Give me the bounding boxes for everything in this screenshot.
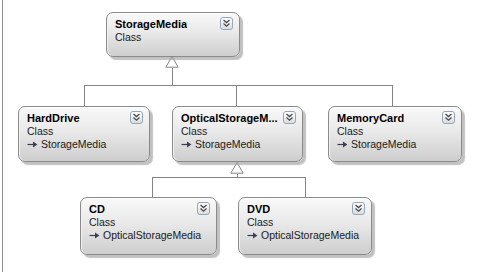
base-type-name: StorageMedia <box>351 138 416 151</box>
inherits-arrow-icon <box>89 231 100 240</box>
collapse-button[interactable] <box>283 111 296 124</box>
inherits-arrow-icon <box>247 231 258 240</box>
class-title: DVD <box>247 202 270 216</box>
chevron-double-down-icon <box>199 204 208 213</box>
class-node-storagemedia[interactable]: StorageMedia Class <box>106 12 240 57</box>
inheritance-triangle-icon <box>165 56 179 68</box>
class-node-cd[interactable]: CD Class OpticalStorageMedia <box>80 197 217 255</box>
class-node-dvd[interactable]: DVD Class OpticalStorageMedia <box>238 197 372 255</box>
class-title: OpticalStorageM... <box>181 111 278 125</box>
base-type-name: OpticalStorageMedia <box>261 229 359 242</box>
collapse-button[interactable] <box>352 202 365 215</box>
class-node-memorycard[interactable]: MemoryCard Class StorageMedia <box>328 106 462 162</box>
class-title: HardDrive <box>27 111 80 125</box>
inheritance-connector-line <box>172 68 173 85</box>
base-type-name: StorageMedia <box>41 138 106 151</box>
inheritance-connector-line <box>84 85 393 86</box>
chevron-double-down-icon <box>285 113 294 122</box>
inheritance-connector-line <box>392 85 393 106</box>
inheritance-triangle-icon <box>230 162 244 174</box>
class-stereotype: Class <box>115 31 233 44</box>
collapse-button[interactable] <box>197 202 210 215</box>
collapse-button[interactable] <box>220 17 233 30</box>
class-stereotype: Class <box>247 216 365 229</box>
class-stereotype: Class <box>27 125 143 138</box>
chevron-double-down-icon <box>222 19 231 28</box>
class-title: MemoryCard <box>337 111 404 125</box>
diagram-canvas-edge <box>2 0 3 272</box>
class-title: CD <box>89 202 105 216</box>
inherits-arrow-icon <box>27 140 38 149</box>
inheritance-connector-line <box>152 177 153 197</box>
inheritance-connector-line <box>84 85 85 106</box>
base-type-row: OpticalStorageMedia <box>247 229 365 242</box>
inherits-arrow-icon <box>337 140 348 149</box>
collapse-button[interactable] <box>442 111 455 124</box>
class-node-opticalstoragemedia[interactable]: OpticalStorageM... Class StorageMedia <box>172 106 303 162</box>
collapse-button[interactable] <box>130 111 143 124</box>
chevron-double-down-icon <box>354 204 363 213</box>
inheritance-connector-line <box>152 177 306 178</box>
class-stereotype: Class <box>181 125 296 138</box>
base-type-row: StorageMedia <box>27 138 143 151</box>
inherits-arrow-icon <box>181 140 192 149</box>
class-title: StorageMedia <box>115 17 187 31</box>
class-node-harddrive[interactable]: HardDrive Class StorageMedia <box>18 106 150 162</box>
base-type-name: OpticalStorageMedia <box>103 229 201 242</box>
base-type-row: OpticalStorageMedia <box>89 229 210 242</box>
base-type-name: StorageMedia <box>195 138 260 151</box>
class-stereotype: Class <box>89 216 210 229</box>
chevron-double-down-icon <box>132 113 141 122</box>
inheritance-connector-line <box>236 85 237 106</box>
class-stereotype: Class <box>337 125 455 138</box>
inheritance-connector-line <box>305 177 306 197</box>
base-type-row: StorageMedia <box>337 138 455 151</box>
chevron-double-down-icon <box>444 113 453 122</box>
base-type-row: StorageMedia <box>181 138 296 151</box>
